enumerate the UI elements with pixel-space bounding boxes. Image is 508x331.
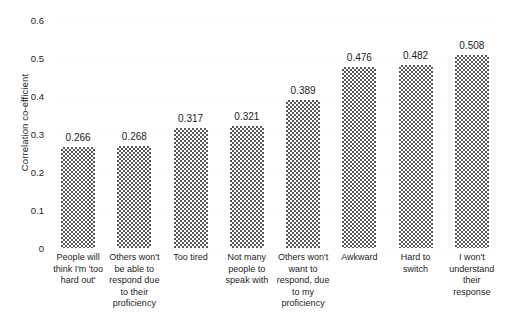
bar-slot: 0.268 (106, 20, 162, 248)
y-axis-tick-label: 0 (0, 243, 44, 254)
y-axis-tick-label: 0.1 (0, 205, 44, 216)
x-axis-category-label: Too tired (163, 252, 219, 264)
y-axis-tick-label: 0.6 (0, 15, 44, 26)
y-axis-tick-label: 0.3 (0, 129, 44, 140)
bar-slot: 0.389 (275, 20, 331, 248)
x-axis-category-label: I won't understand their response (444, 252, 500, 298)
gridline (50, 248, 500, 249)
bar-slot: 0.508 (444, 20, 500, 248)
bar-chart: Correlation co-efficient 00.10.20.30.40.… (0, 0, 508, 331)
bar[interactable] (399, 65, 433, 248)
bar-value-label: 0.321 (234, 111, 259, 122)
bar[interactable] (61, 147, 95, 248)
bar-slot: 0.321 (219, 20, 275, 248)
bar-value-label: 0.317 (178, 113, 203, 124)
bar-slot: 0.476 (331, 20, 387, 248)
x-axis-category-label: Awkward (331, 252, 387, 264)
y-axis-tick-label: 0.5 (0, 53, 44, 64)
bar-slot: 0.266 (50, 20, 106, 248)
bar-value-label: 0.268 (122, 131, 147, 142)
bar[interactable] (342, 67, 376, 248)
y-axis-tick-label: 0.4 (0, 91, 44, 102)
x-axis-category-labels: People will think I'm 'too hard out'Othe… (50, 252, 500, 327)
bar[interactable] (117, 146, 151, 248)
bar-value-label: 0.266 (66, 132, 91, 143)
x-axis-category-label: Hard to switch (388, 252, 444, 275)
plot-area: 0.2660.2680.3170.3210.3890.4760.4820.508 (50, 20, 500, 248)
bar-slot: 0.317 (163, 20, 219, 248)
x-axis-category-label: People will think I'm 'too hard out' (50, 252, 106, 287)
bar[interactable] (286, 100, 320, 248)
bar-slot: 0.482 (388, 20, 444, 248)
bar[interactable] (230, 126, 264, 248)
bar-value-label: 0.482 (403, 50, 428, 61)
bar-value-label: 0.476 (347, 52, 372, 63)
bar[interactable] (455, 55, 489, 248)
y-axis-title: Correlation co-efficient (19, 43, 30, 203)
x-axis-category-label: Not many people to speak with (219, 252, 275, 287)
bar-value-label: 0.389 (291, 85, 316, 96)
x-axis-category-label: Others won't be able to respond due to t… (106, 252, 162, 310)
y-axis-tick-label: 0.2 (0, 167, 44, 178)
x-axis-category-label: Others won't want to respond, due to my … (275, 252, 331, 310)
bar-value-label: 0.508 (459, 40, 484, 51)
bar[interactable] (174, 128, 208, 248)
